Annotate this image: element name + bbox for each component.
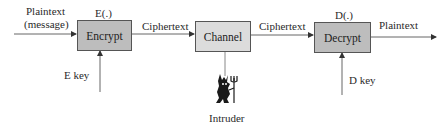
decrypt-label: Decrypt bbox=[324, 32, 361, 44]
ciphertext-label-1: Ciphertext bbox=[142, 20, 188, 32]
encrypt-function-label: E(.) bbox=[95, 7, 112, 19]
d-key-label: D key bbox=[349, 74, 376, 86]
e-key-label: E key bbox=[64, 69, 89, 81]
plaintext-input-label: Plaintext bbox=[26, 5, 65, 17]
decrypt-function-label: D(.) bbox=[335, 9, 353, 21]
crypto-diagram: Plaintext (message) E(.) Encrypt Ciphert… bbox=[0, 0, 443, 129]
encrypt-label: Encrypt bbox=[86, 30, 122, 42]
message-input-label: (message) bbox=[24, 18, 69, 30]
decrypt-box: Decrypt bbox=[314, 22, 371, 53]
intruder-label: Intruder bbox=[209, 112, 244, 124]
ciphertext-label-2: Ciphertext bbox=[259, 20, 305, 32]
channel-label: Channel bbox=[204, 31, 242, 43]
devil-icon bbox=[214, 72, 240, 104]
encrypt-box: Encrypt bbox=[77, 20, 132, 51]
plaintext-output-label: Plaintext bbox=[379, 19, 418, 31]
channel-box: Channel bbox=[195, 21, 251, 52]
